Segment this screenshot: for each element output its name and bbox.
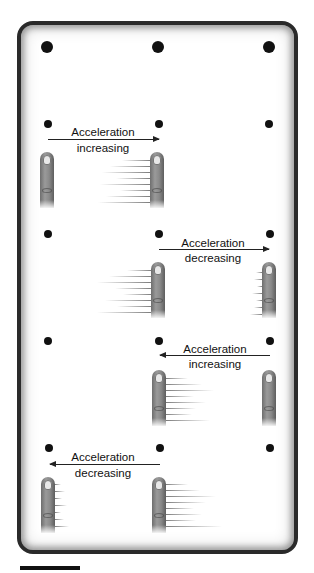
knuckle-crease bbox=[152, 188, 162, 193]
panel-4-label-line2: decreasing bbox=[60, 466, 146, 480]
finger-icon-decelerating bbox=[41, 477, 55, 533]
target-dot-r1-c2 bbox=[155, 120, 163, 128]
knuckle-crease bbox=[154, 406, 164, 411]
panel-1-label-line1: Acceleration bbox=[60, 125, 146, 139]
panel-1-label-2: increasing bbox=[60, 141, 146, 155]
target-dot-r0-c1 bbox=[41, 41, 53, 53]
finger-icon-static bbox=[262, 370, 276, 426]
motion-streaks-long bbox=[98, 158, 150, 206]
finger-icon-static bbox=[40, 152, 54, 208]
motion-streaks-long bbox=[97, 268, 151, 316]
target-dot-r2-c1 bbox=[44, 230, 52, 238]
target-dot-r3-c2 bbox=[155, 337, 163, 345]
panel-3-label-line1: Acceleration bbox=[172, 342, 258, 356]
fingernail-icon bbox=[265, 373, 273, 383]
motion-streaks-short bbox=[250, 270, 262, 316]
panel-3-label-line2: increasing bbox=[172, 357, 258, 371]
target-dot-r4-c1 bbox=[45, 444, 53, 452]
fingernail-icon bbox=[44, 480, 52, 490]
fingernail-icon bbox=[155, 373, 163, 383]
knuckle-crease bbox=[264, 298, 274, 303]
panel-1-arrow-right bbox=[48, 139, 159, 140]
panel-3-arrow-left bbox=[160, 355, 270, 356]
target-dot-r3-c1 bbox=[44, 337, 52, 345]
finger-icon-decelerating bbox=[262, 262, 276, 318]
fingernail-icon bbox=[265, 265, 273, 275]
panel-2-label-2: decreasing bbox=[170, 251, 256, 265]
panel-3-label: Acceleration bbox=[172, 342, 258, 356]
motion-streaks-long bbox=[166, 482, 222, 530]
panel-1-label-line2: increasing bbox=[60, 141, 146, 155]
finger-icon-accelerating bbox=[152, 370, 166, 426]
panel-2-label-line1: Acceleration bbox=[170, 236, 256, 250]
target-dot-r0-c2 bbox=[152, 41, 164, 53]
target-dot-r1-c3 bbox=[265, 120, 273, 128]
finger-icon-fast bbox=[151, 262, 165, 318]
panel-2-arrow-right bbox=[159, 249, 269, 250]
target-dot-r0-c3 bbox=[263, 41, 275, 53]
panel-3-label-2: increasing bbox=[172, 357, 258, 371]
target-dot-r1-c1 bbox=[44, 120, 52, 128]
fingernail-icon bbox=[43, 155, 51, 165]
knuckle-crease bbox=[264, 406, 274, 411]
target-dot-r3-c3 bbox=[266, 337, 274, 345]
finger-icon-fast bbox=[152, 477, 166, 533]
panel-4-label-line1: Acceleration bbox=[60, 450, 146, 464]
motion-streaks-long bbox=[166, 376, 216, 424]
panel-4-label: Acceleration bbox=[60, 450, 146, 464]
fingernail-icon bbox=[153, 155, 161, 165]
target-dot-r4-c3 bbox=[266, 444, 274, 452]
target-dot-r4-c2 bbox=[156, 444, 164, 452]
target-dot-r2-c3 bbox=[266, 230, 274, 238]
knuckle-crease bbox=[42, 188, 52, 193]
scale-bar bbox=[20, 566, 80, 570]
knuckle-crease bbox=[153, 298, 163, 303]
panel-1-label: Acceleration bbox=[60, 125, 146, 139]
knuckle-crease bbox=[43, 513, 53, 518]
panel-2-label-line2: decreasing bbox=[170, 251, 256, 265]
fingernail-icon bbox=[154, 265, 162, 275]
motion-streaks-short bbox=[55, 482, 69, 530]
panel-4-arrow-left bbox=[50, 464, 160, 465]
knuckle-crease bbox=[154, 513, 164, 518]
panel-2-label: Acceleration bbox=[170, 236, 256, 250]
target-dot-r2-c2 bbox=[155, 230, 163, 238]
fingernail-icon bbox=[155, 480, 163, 490]
panel-4-label-2: decreasing bbox=[60, 466, 146, 480]
finger-icon-accelerating bbox=[150, 152, 164, 208]
